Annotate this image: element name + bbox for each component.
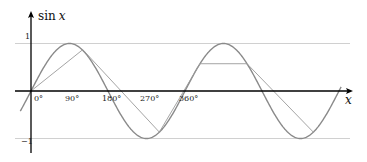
x-tick-label-180: 180° <box>102 94 121 103</box>
x-tick-label-360: 360° <box>179 94 198 103</box>
x-axis-label: x <box>345 93 352 107</box>
x-tick-label-0: 0° <box>34 94 43 103</box>
x-tick-label-90: 90° <box>65 94 79 103</box>
y-tick-label-1: 1 <box>25 32 30 41</box>
sine-plot: sinx x 1 −1 0° 90° 180° 270° 360° <box>0 0 367 162</box>
y-axis-label-var: x <box>59 9 66 23</box>
y-axis-label: sinx <box>38 9 66 23</box>
x-tick-label-270: 270° <box>140 94 159 103</box>
y-tick-label-minus-1: −1 <box>21 137 33 146</box>
y-axis-label-fn: sin <box>38 9 56 23</box>
